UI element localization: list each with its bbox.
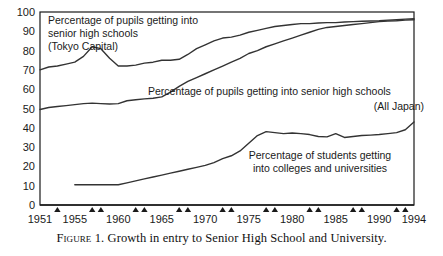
triangle-marker-1978	[272, 207, 278, 212]
annotation-tokyo-line2: senior high schools	[48, 27, 138, 39]
triangle-marker-1957	[89, 207, 95, 212]
annotation-all-japan: Percentage of pupils getting into senior…	[148, 85, 424, 112]
y-tick-90: 90	[23, 25, 35, 37]
annotation-university: Percentage of students getting into coll…	[249, 149, 392, 174]
annotation-all-japan-line2: (All Japan)	[374, 100, 424, 112]
annotation-tokyo-line3: (Tokyo Capital)	[48, 40, 118, 52]
triangle-marker-1972	[219, 207, 225, 212]
y-tick-20: 20	[23, 160, 35, 172]
x-tick-1980: 1980	[280, 213, 304, 225]
x-tick-1975: 1975	[237, 213, 261, 225]
x-tick-1951: 1951	[28, 213, 52, 225]
y-axis-tick-labels: 0102030405060708090100	[17, 6, 35, 211]
caption-number: 1.	[95, 231, 105, 245]
x-tick-1970: 1970	[193, 213, 217, 225]
triangle-marker-1982	[306, 207, 312, 212]
triangle-marker-1992	[393, 207, 399, 212]
triangle-marker-1988	[359, 207, 365, 212]
y-tick-40: 40	[23, 122, 35, 134]
triangle-marker-1962	[132, 207, 138, 212]
triangle-marker-1967	[176, 207, 182, 212]
y-tick-50: 50	[23, 103, 35, 115]
chart-area: 0102030405060708090100 19511955196019651…	[0, 0, 443, 228]
y-tick-100: 100	[17, 6, 35, 18]
x-tick-1965: 1965	[150, 213, 174, 225]
y-tick-80: 80	[23, 45, 35, 57]
triangle-marker-1983	[315, 207, 321, 212]
triangle-marker-1977	[263, 207, 269, 212]
triangle-marker-1963	[141, 207, 147, 212]
figure-container: 0102030405060708090100 19511955196019651…	[0, 0, 443, 256]
y-tick-10: 10	[23, 180, 35, 192]
caption-text: Growth in entry to Senior High School an…	[108, 231, 387, 245]
y-tick-60: 60	[23, 83, 35, 95]
triangle-marker-1993	[402, 207, 408, 212]
triangle-marker-1987	[350, 207, 356, 212]
y-tick-0: 0	[29, 199, 35, 211]
x-tick-1955: 1955	[63, 213, 87, 225]
x-axis-triangle-markers	[54, 207, 408, 212]
x-tick-1994: 1994	[402, 213, 426, 225]
annotation-university-line2: into colleges and universities	[253, 162, 387, 174]
y-tick-70: 70	[23, 64, 35, 76]
annotation-tokyo-line1: Percentage of pupils getting into	[48, 14, 198, 26]
triangle-marker-1958	[98, 207, 104, 212]
x-tick-1990: 1990	[367, 213, 391, 225]
x-tick-1960: 1960	[106, 213, 130, 225]
triangle-marker-1968	[185, 207, 191, 212]
x-tick-1985: 1985	[323, 213, 347, 225]
triangle-marker-1973	[228, 207, 234, 212]
x-axis-tick-labels: 1951195519601965197019751980198519901994	[28, 213, 426, 225]
caption-label: Figure	[56, 231, 91, 245]
annotation-university-line1: Percentage of students getting	[249, 149, 392, 161]
figure-caption: Figure 1. Growth in entry to Senior High…	[0, 231, 443, 246]
line-chart: 0102030405060708090100 19511955196019651…	[0, 0, 443, 228]
y-tick-30: 30	[23, 141, 35, 153]
annotation-tokyo: Percentage of pupils getting into senior…	[48, 14, 198, 52]
triangle-marker-1953	[54, 207, 60, 212]
annotation-all-japan-line1: Percentage of pupils getting into senior…	[148, 85, 391, 97]
